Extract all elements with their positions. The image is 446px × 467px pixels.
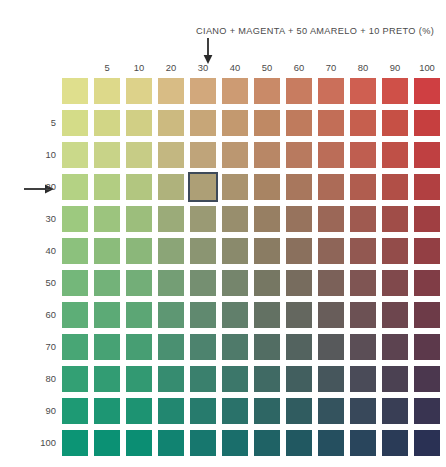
color-swatch[interactable] <box>190 142 216 168</box>
color-swatch[interactable] <box>318 206 344 232</box>
color-swatch[interactable] <box>94 142 120 168</box>
color-swatch[interactable] <box>414 78 440 104</box>
color-swatch[interactable] <box>158 398 184 424</box>
color-swatch[interactable] <box>286 398 312 424</box>
color-swatch[interactable] <box>382 270 408 296</box>
color-swatch[interactable] <box>190 206 216 232</box>
color-swatch[interactable] <box>222 334 248 360</box>
color-swatch[interactable] <box>126 206 152 232</box>
color-swatch[interactable] <box>254 366 280 392</box>
color-swatch[interactable] <box>158 174 184 200</box>
color-swatch[interactable] <box>254 302 280 328</box>
color-swatch[interactable] <box>382 398 408 424</box>
color-swatch[interactable] <box>190 366 216 392</box>
color-swatch[interactable] <box>414 334 440 360</box>
color-swatch[interactable] <box>350 78 376 104</box>
color-swatch[interactable] <box>414 206 440 232</box>
color-swatch[interactable] <box>62 270 88 296</box>
color-swatch[interactable] <box>318 334 344 360</box>
color-swatch[interactable] <box>254 334 280 360</box>
color-swatch[interactable] <box>382 142 408 168</box>
color-swatch[interactable] <box>190 398 216 424</box>
color-swatch[interactable] <box>190 334 216 360</box>
color-swatch[interactable] <box>94 206 120 232</box>
color-swatch[interactable] <box>126 174 152 200</box>
color-swatch[interactable] <box>286 78 312 104</box>
color-swatch[interactable] <box>94 78 120 104</box>
color-swatch[interactable] <box>382 302 408 328</box>
color-swatch[interactable] <box>94 270 120 296</box>
color-swatch[interactable] <box>126 334 152 360</box>
color-swatch[interactable] <box>414 302 440 328</box>
color-swatch[interactable] <box>62 430 88 456</box>
color-swatch[interactable] <box>286 270 312 296</box>
color-swatch[interactable] <box>94 334 120 360</box>
color-swatch[interactable] <box>382 334 408 360</box>
color-swatch[interactable] <box>94 366 120 392</box>
color-swatch[interactable] <box>350 270 376 296</box>
color-swatch[interactable] <box>382 206 408 232</box>
color-swatch[interactable] <box>222 206 248 232</box>
color-swatch[interactable] <box>222 430 248 456</box>
color-swatch[interactable] <box>158 366 184 392</box>
color-swatch[interactable] <box>318 366 344 392</box>
color-swatch[interactable] <box>318 430 344 456</box>
color-swatch[interactable] <box>126 238 152 264</box>
color-swatch[interactable] <box>254 78 280 104</box>
color-swatch[interactable] <box>190 430 216 456</box>
color-swatch[interactable] <box>190 302 216 328</box>
color-swatch[interactable] <box>414 366 440 392</box>
color-swatch[interactable] <box>158 270 184 296</box>
color-swatch[interactable] <box>414 270 440 296</box>
color-swatch[interactable] <box>190 270 216 296</box>
color-swatch[interactable] <box>350 302 376 328</box>
color-swatch[interactable] <box>158 206 184 232</box>
color-swatch[interactable] <box>62 302 88 328</box>
color-swatch[interactable] <box>222 366 248 392</box>
color-swatch[interactable] <box>318 398 344 424</box>
color-swatch[interactable] <box>350 398 376 424</box>
color-swatch[interactable] <box>94 430 120 456</box>
color-swatch[interactable] <box>414 110 440 136</box>
color-swatch[interactable] <box>94 110 120 136</box>
color-swatch[interactable] <box>126 270 152 296</box>
color-swatch[interactable] <box>126 302 152 328</box>
color-swatch[interactable] <box>158 78 184 104</box>
color-swatch[interactable] <box>350 430 376 456</box>
color-swatch[interactable] <box>350 142 376 168</box>
color-swatch[interactable] <box>286 206 312 232</box>
color-swatch[interactable] <box>222 110 248 136</box>
color-swatch[interactable] <box>414 238 440 264</box>
color-swatch[interactable] <box>414 398 440 424</box>
color-swatch[interactable] <box>254 174 280 200</box>
color-swatch[interactable] <box>62 206 88 232</box>
color-swatch[interactable] <box>254 238 280 264</box>
color-swatch[interactable] <box>62 238 88 264</box>
color-swatch[interactable] <box>222 302 248 328</box>
color-swatch[interactable] <box>382 366 408 392</box>
color-swatch[interactable] <box>158 334 184 360</box>
color-swatch[interactable] <box>318 174 344 200</box>
color-swatch[interactable] <box>222 398 248 424</box>
color-swatch[interactable] <box>318 110 344 136</box>
color-swatch[interactable] <box>94 398 120 424</box>
color-swatch[interactable] <box>318 238 344 264</box>
color-swatch[interactable] <box>94 302 120 328</box>
color-swatch[interactable] <box>254 110 280 136</box>
color-swatch[interactable] <box>350 110 376 136</box>
color-swatch[interactable] <box>190 238 216 264</box>
color-swatch[interactable] <box>286 238 312 264</box>
color-swatch[interactable] <box>286 430 312 456</box>
color-swatch[interactable] <box>222 78 248 104</box>
color-swatch[interactable] <box>254 206 280 232</box>
color-swatch[interactable] <box>286 334 312 360</box>
color-swatch[interactable] <box>222 238 248 264</box>
color-swatch[interactable] <box>286 302 312 328</box>
color-swatch[interactable] <box>382 174 408 200</box>
color-swatch[interactable] <box>62 110 88 136</box>
color-swatch[interactable] <box>222 270 248 296</box>
color-swatch[interactable] <box>254 430 280 456</box>
color-swatch[interactable] <box>254 270 280 296</box>
color-swatch[interactable] <box>414 430 440 456</box>
color-swatch[interactable] <box>62 366 88 392</box>
